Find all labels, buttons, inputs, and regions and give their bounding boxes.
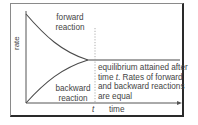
y-axis-label: rate	[12, 36, 21, 50]
equilibrium-annotation: equilibrium attained after time t. Rates…	[98, 63, 188, 101]
annotation-line2-suffix: . Rates of forward	[118, 73, 183, 82]
backward-label-line1: backward	[48, 84, 98, 94]
annotation-line3: and backward reactions	[98, 82, 188, 92]
forward-label-line1: forward	[46, 13, 94, 23]
annotation-line2-prefix: time	[98, 73, 116, 82]
forward-label-line2: reaction	[46, 23, 94, 33]
annotation-line2: time t. Rates of forward	[98, 73, 188, 83]
x-axis-arrow-icon	[177, 101, 182, 105]
x-axis-t-marker: t	[92, 105, 94, 115]
forward-reaction-label: forward reaction	[46, 13, 94, 32]
annotation-line1: equilibrium attained after	[98, 63, 188, 73]
x-axis-label: time	[109, 105, 124, 115]
backward-label-line2: reaction	[48, 94, 98, 104]
backward-reaction-label: backward reaction	[48, 84, 98, 103]
annotation-line4: are equal	[98, 92, 188, 102]
